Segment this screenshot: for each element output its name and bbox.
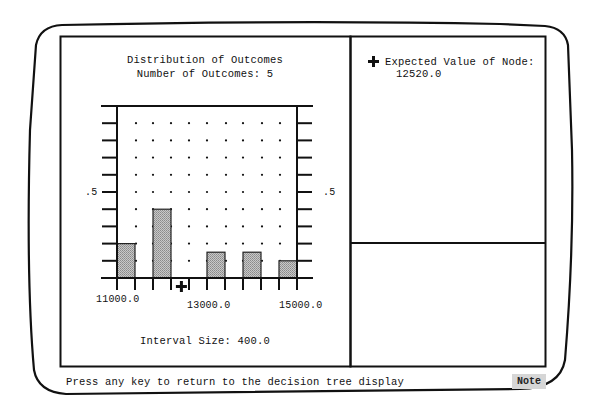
y-axis-label-left: .5	[85, 187, 97, 198]
status-message: Press any key to return to the decision …	[66, 376, 404, 388]
y-axis-label-right: .5	[323, 187, 335, 198]
histogram-bar	[279, 261, 297, 278]
expected-value-marker-icon	[176, 281, 187, 292]
note-button[interactable]: Note	[512, 374, 546, 389]
histogram-bar	[153, 209, 171, 278]
x-tick-label-13000: 13000.0	[187, 300, 230, 311]
x-tick-label-11000: 11000.0	[96, 294, 139, 305]
histogram-bar	[117, 244, 135, 278]
x-tick-label-15000: 15000.0	[279, 300, 322, 311]
expected-value: 12520.0	[396, 68, 442, 80]
interval-size-label: Interval Size: 400.0	[60, 335, 350, 347]
lower-empty-pane	[352, 245, 544, 365]
plus-marker-icon	[368, 56, 379, 67]
histogram-bar	[243, 252, 261, 278]
histogram-bar	[207, 252, 225, 278]
expected-value-label: Expected Value of Node:	[385, 56, 535, 68]
